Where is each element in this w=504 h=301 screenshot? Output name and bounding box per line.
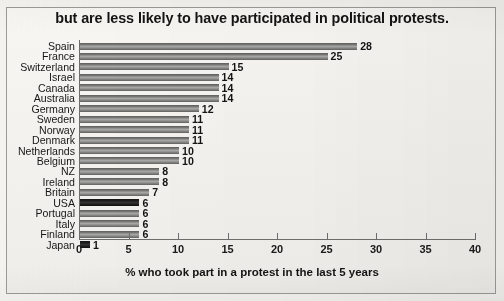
bar-ireland	[80, 178, 159, 185]
bar-value-france: 25	[331, 51, 343, 61]
x-tick-mark-35	[426, 233, 427, 239]
x-tick-label-30: 30	[356, 243, 396, 255]
bar-row: USA6	[0, 198, 504, 208]
bar-row: Israel14	[0, 72, 504, 82]
bar-spain	[80, 43, 357, 50]
bar-row: Belgium10	[0, 156, 504, 166]
bar-row: Switzerland15	[0, 62, 504, 72]
y-axis-line	[79, 40, 80, 239]
bar-italy	[80, 220, 139, 227]
category-label-denmark: Denmark	[0, 135, 75, 145]
x-axis-line	[79, 239, 476, 240]
bar-row: Canada14	[0, 83, 504, 93]
bar-germany	[80, 105, 199, 112]
category-label-finland: Finland	[0, 229, 75, 239]
bar-row: Britain7	[0, 187, 504, 197]
bar-value-australia: 14	[222, 93, 234, 103]
bar-norway	[80, 126, 189, 133]
bar-value-spain: 28	[360, 41, 372, 51]
bar-row: Portugal6	[0, 208, 504, 218]
x-tick-label-0: 0	[59, 243, 99, 255]
bar-row: Finland6	[0, 229, 504, 239]
bar-value-britain: 7	[152, 187, 158, 197]
bar-row: NZ8	[0, 166, 504, 176]
chart-title: but are less likely to have participated…	[0, 10, 504, 26]
bar-israel	[80, 74, 219, 81]
bar-row: France25	[0, 51, 504, 61]
bar-value-germany: 12	[202, 104, 214, 114]
x-axis-title: % who took part in a protest in the last…	[0, 266, 504, 278]
x-tick-label-35: 35	[406, 243, 446, 255]
x-tick-mark-40	[475, 233, 476, 239]
bar-denmark	[80, 137, 189, 144]
bar-value-denmark: 11	[192, 135, 203, 145]
bar-row: Spain28	[0, 41, 504, 51]
bar-nz	[80, 168, 159, 175]
x-tick-label-20: 20	[257, 243, 297, 255]
bar-finland	[80, 231, 139, 238]
bar-row: Denmark11	[0, 135, 504, 145]
bar-portugal	[80, 210, 139, 217]
x-tick-mark-30	[376, 233, 377, 239]
bar-canada	[80, 84, 219, 91]
x-tick-mark-20	[277, 233, 278, 239]
bar-row: Sweden11	[0, 114, 504, 124]
x-tick-label-25: 25	[307, 243, 347, 255]
bar-row: Australia14	[0, 93, 504, 103]
bar-sweden	[80, 116, 189, 123]
x-tick-label-5: 5	[109, 243, 149, 255]
bar-usa	[80, 199, 139, 206]
bar-row: Italy6	[0, 219, 504, 229]
bar-value-finland: 6	[142, 229, 148, 239]
bar-belgium	[80, 157, 179, 164]
bar-france	[80, 53, 328, 60]
bar-row: Netherlands10	[0, 146, 504, 156]
chart-figure: but are less likely to have participated…	[0, 0, 504, 301]
x-tick-mark-25	[327, 233, 328, 239]
bar-row: Germany12	[0, 104, 504, 114]
x-tick-mark-15	[228, 233, 229, 239]
bar-netherlands	[80, 147, 179, 154]
bar-row: Norway11	[0, 125, 504, 135]
x-tick-mark-5	[129, 233, 130, 239]
bar-switzerland	[80, 63, 229, 70]
bar-value-switzerland: 15	[232, 62, 244, 72]
x-tick-label-15: 15	[208, 243, 248, 255]
x-tick-mark-10	[178, 233, 179, 239]
bar-australia	[80, 95, 219, 102]
bar-row: Ireland8	[0, 177, 504, 187]
bar-value-belgium: 10	[182, 156, 194, 166]
bar-value-ireland: 8	[162, 177, 168, 187]
x-tick-label-40: 40	[455, 243, 495, 255]
x-tick-label-10: 10	[158, 243, 198, 255]
x-tick-mark-0	[79, 233, 80, 239]
bar-britain	[80, 189, 149, 196]
